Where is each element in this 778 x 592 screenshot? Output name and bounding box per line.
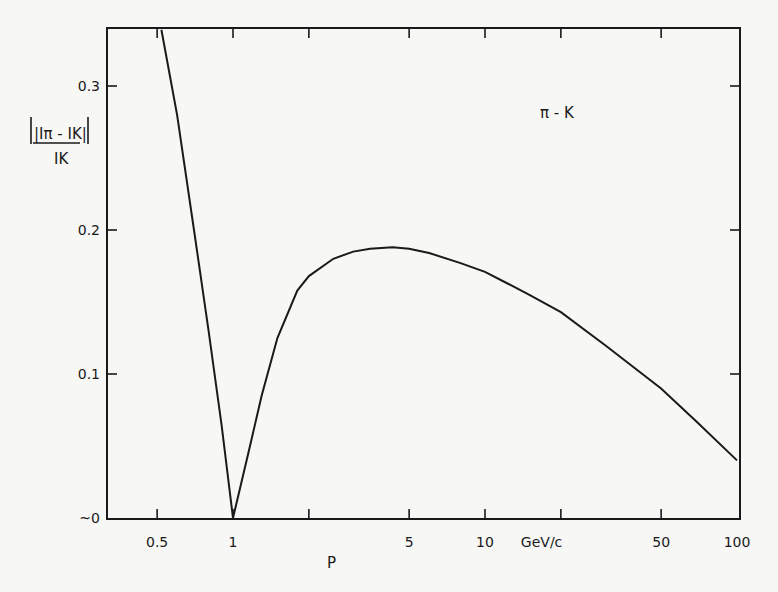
y-tick-label: 0.3 <box>78 78 100 94</box>
axis-ticks <box>107 28 740 519</box>
y-axis-label: |Iπ - IK| IK <box>31 117 88 168</box>
svg-text:IK: IK <box>54 150 69 168</box>
chart-canvas: 0.51510GeV/c50100~00.10.20.3 π - K P |Iπ… <box>0 0 778 592</box>
y-tick-label: 0.2 <box>78 222 100 238</box>
x-tick-label: 10 <box>476 534 494 550</box>
data-series-pi-k <box>161 30 737 518</box>
x-tick-label: 0.5 <box>146 534 168 550</box>
x-tick-label: 5 <box>405 534 414 550</box>
x-tick-label: 100 <box>724 534 751 550</box>
x-axis-label: P <box>327 554 336 572</box>
plot-frame <box>107 28 740 519</box>
svg-text:|Iπ - IK|: |Iπ - IK| <box>34 125 87 143</box>
axis-tick-labels: 0.51510GeV/c50100~00.10.20.3 <box>78 78 751 550</box>
x-tick-label: GeV/c <box>521 534 562 550</box>
y-tick-label: 0.1 <box>78 366 100 382</box>
x-tick-label: 50 <box>652 534 670 550</box>
y-tick-label: ~0 <box>79 510 100 526</box>
x-tick-label: 1 <box>229 534 238 550</box>
annotation-pi-k: π - K <box>540 104 575 122</box>
